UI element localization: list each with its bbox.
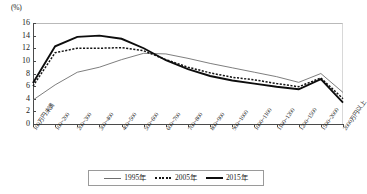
- y-tick-mark: [33, 61, 36, 62]
- legend-item-2015: 2015年: [206, 174, 248, 182]
- y-tick-label: 4: [10, 95, 30, 103]
- y-tick-label: 6: [10, 82, 30, 90]
- y-tick-mark: [33, 48, 36, 49]
- y-tick-mark: [33, 74, 36, 75]
- legend-item-2005: 2005年: [155, 174, 197, 182]
- y-tick-label: 16: [10, 19, 30, 27]
- legend-label-2005: 2005年: [175, 174, 197, 182]
- y-tick-label: 12: [10, 44, 30, 52]
- chart-legend: 1995年 2005年 2015年: [88, 170, 264, 186]
- y-tick-label: 8: [10, 70, 30, 78]
- y-tick-mark: [33, 86, 36, 87]
- y-tick-label: 0: [10, 120, 30, 128]
- dotted-line-swatch-icon: [155, 176, 172, 180]
- y-tick-label: 2: [10, 107, 30, 115]
- legend-label-2015: 2015年: [226, 174, 248, 182]
- y-tick-mark: [33, 23, 36, 24]
- y-tick-label: 14: [10, 32, 30, 40]
- plot-area: [33, 23, 343, 124]
- y-tick-label: 10: [10, 57, 30, 65]
- y-tick-mark: [33, 36, 36, 37]
- y-axis-unit-label: (%): [11, 4, 22, 12]
- y-tick-mark: [33, 111, 36, 112]
- x-tick-label: 2000万円以上: [342, 100, 367, 132]
- thin-solid-line-swatch-icon: [104, 176, 121, 180]
- y-tick-mark: [33, 99, 36, 100]
- legend-label-1995: 1995年: [124, 174, 146, 182]
- thick-solid-line-swatch-icon: [206, 176, 223, 180]
- legend-item-1995: 1995年: [104, 174, 146, 182]
